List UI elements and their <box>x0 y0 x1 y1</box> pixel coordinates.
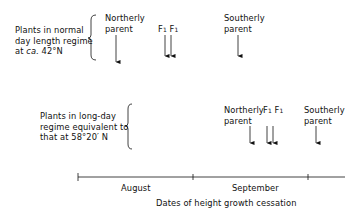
top-northerly-line-2: parent <box>105 24 145 35</box>
top-label-lat: 42°N <box>39 46 63 56</box>
bottom-f1-b-sub: 1 <box>279 107 283 114</box>
bottom-northerly-line-2: parent <box>224 116 264 127</box>
top-f1-a-sub: 1 <box>163 26 167 33</box>
bottom-southerly-label: Southerly parent <box>304 105 345 126</box>
top-label-line-1: Plants in normal <box>15 25 93 36</box>
bottom-southerly-line-2: parent <box>304 116 345 127</box>
bottom-northerly-line-1: Northerly <box>224 105 264 116</box>
bottom-northerly-label: Northerly parent <box>224 105 264 126</box>
axis-month-september: September <box>232 183 279 194</box>
top-southerly-line-2: parent <box>224 24 265 35</box>
bottom-f1-a-sub: 1 <box>268 107 272 114</box>
top-northerly-label: Northerly parent <box>105 13 145 34</box>
top-f1-b-sub: 1 <box>174 26 178 33</box>
top-label-line-2: day length regime <box>15 36 93 47</box>
top-label-ca: ca. <box>26 46 39 56</box>
axis-caption: Dates of height growth cessation <box>156 198 297 209</box>
top-northerly-line-1: Northerly <box>105 13 145 24</box>
bottom-southerly-line-1: Southerly <box>304 105 345 116</box>
top-group-label: Plants in normal day length regime at ca… <box>15 25 93 57</box>
bottom-f1-labels: F1 F1 <box>263 105 283 117</box>
top-label-at: at <box>15 46 26 56</box>
top-southerly-line-1: Southerly <box>224 13 265 24</box>
axis-month-august: August <box>121 183 151 194</box>
bottom-label-line-3: that at 58°20′ N <box>40 132 129 143</box>
bottom-label-line-2: regime equivalent to <box>40 122 129 133</box>
top-southerly-label: Southerly parent <box>224 13 265 34</box>
bottom-group-label: Plants in long-day regime equivalent to … <box>40 111 129 143</box>
top-f1-labels: F1 F1 <box>158 24 178 36</box>
top-label-line-3: at ca. 42°N <box>15 46 93 57</box>
bottom-label-line-1: Plants in long-day <box>40 111 129 122</box>
